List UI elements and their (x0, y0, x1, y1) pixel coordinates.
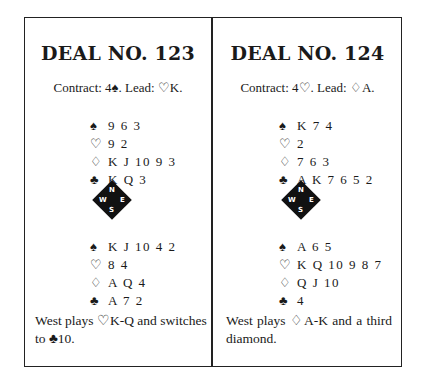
hand-row: ♣4 (279, 292, 383, 310)
club-icon: ♣ (90, 292, 108, 310)
heart-icon: ♡ (279, 256, 297, 274)
hand-row: ♡8 4 (90, 256, 176, 274)
hand-row: ♠A 6 5 (279, 238, 383, 256)
south-hand: ♠A 6 5 ♡K Q 10 9 8 7 ♢Q J 10 ♣4 (279, 238, 383, 310)
deal-title: DEAL NO. 124 (213, 42, 402, 64)
diamond-icon: ♢ (90, 274, 108, 292)
hand-row: ♢K J 10 9 3 (90, 153, 176, 171)
deal-124-panel: DEAL NO. 124 Contract: 4♡. Lead: ♢A. ♠K … (213, 17, 402, 367)
diamond-icon: ♢ (279, 274, 297, 292)
compass-icon: N W E S (92, 180, 132, 220)
hand-row: ♡K Q 10 9 8 7 (279, 256, 383, 274)
deal-title: DEAL NO. 123 (24, 42, 212, 64)
deal-note: West plays ♡K-Q and switches to ♣10. (35, 312, 207, 348)
heart-icon: ♡ (90, 135, 108, 153)
spade-icon: ♠ (279, 117, 297, 135)
deal-123-panel: DEAL NO. 123 Contract: 4♠. Lead: ♡K. ♠9 … (24, 17, 212, 367)
heart-icon: ♡ (90, 256, 108, 274)
hand-row: ♢Q J 10 (279, 274, 383, 292)
diamond-icon: ♢ (279, 153, 297, 171)
hand-row: ♡2 (279, 135, 374, 153)
hand-row: ♢A Q 4 (90, 274, 176, 292)
hand-row: ♠K J 10 4 2 (90, 238, 176, 256)
heart-icon: ♡ (279, 135, 297, 153)
compass-icon: N W E S (281, 180, 321, 220)
spade-icon: ♠ (90, 117, 108, 135)
contract-line: Contract: 4♡. Lead: ♢A. (213, 80, 402, 96)
hand-row: ♠K 7 4 (279, 117, 374, 135)
north-hand: ♠K 7 4 ♡2 ♢7 6 3 ♣A K 7 6 5 2 (279, 117, 374, 189)
hand-row: ♣A 7 2 (90, 292, 176, 310)
spade-icon: ♠ (279, 238, 297, 256)
hand-row: ♡9 2 (90, 135, 176, 153)
club-icon: ♣ (279, 292, 297, 310)
hand-row: ♠9 6 3 (90, 117, 176, 135)
deal-note: West plays ♢A-K and a third diamond. (226, 312, 392, 348)
spade-icon: ♠ (90, 238, 108, 256)
diamond-icon: ♢ (90, 153, 108, 171)
north-hand: ♠9 6 3 ♡9 2 ♢K J 10 9 3 ♣K Q 3 (90, 117, 176, 189)
hand-row: ♢7 6 3 (279, 153, 374, 171)
contract-line: Contract: 4♠. Lead: ♡K. (24, 80, 212, 96)
south-hand: ♠K J 10 4 2 ♡8 4 ♢A Q 4 ♣A 7 2 (90, 238, 176, 310)
